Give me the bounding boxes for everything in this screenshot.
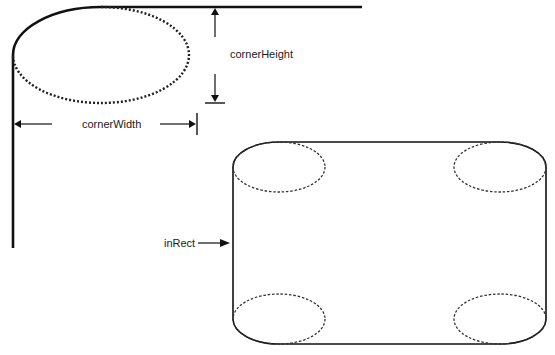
arrow-right-icon bbox=[189, 120, 196, 128]
in-rect-label: inRect bbox=[164, 237, 195, 249]
corner-width-label: cornerWidth bbox=[82, 118, 141, 130]
arrow-down-icon bbox=[211, 95, 219, 102]
corner-width-dimension: cornerWidth bbox=[14, 113, 197, 135]
rounded-rect-diagram: cornerHeight cornerWidth inRect bbox=[0, 0, 555, 355]
arrow-left-icon bbox=[14, 120, 21, 128]
corner-detail: cornerHeight cornerWidth bbox=[13, 7, 362, 248]
corner-height-dimension: cornerHeight bbox=[205, 8, 293, 103]
corner-height-label: cornerHeight bbox=[230, 48, 293, 60]
arrow-up-icon bbox=[211, 8, 219, 15]
arrow-right-icon bbox=[220, 239, 230, 247]
in-rect-pointer: inRect bbox=[164, 237, 230, 249]
rounded-rect-overview: inRect bbox=[164, 142, 546, 344]
rounded-rect-outline bbox=[233, 142, 546, 344]
corner-oval-top-right bbox=[454, 142, 546, 192]
corner-oval-bottom-right bbox=[454, 294, 546, 344]
